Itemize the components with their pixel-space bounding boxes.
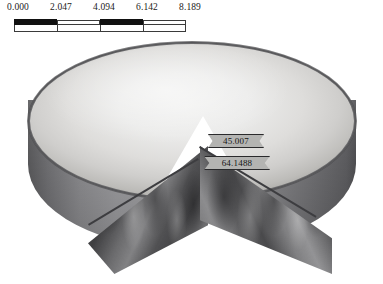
cylinder-model <box>22 42 362 280</box>
scale-bar-segment-3 <box>143 20 186 25</box>
scale-bar: 0.000 2.047 4.094 6.142 8.189 <box>0 0 383 40</box>
scale-bar-tick-3 <box>143 25 144 32</box>
callout-lower[interactable]: 64.1488 <box>204 156 270 170</box>
scale-tick-label-3: 6.142 <box>136 2 158 12</box>
callout-lower-value: 64.1488 <box>222 158 253 168</box>
scale-bar-tick-1 <box>57 25 58 32</box>
callout-upper[interactable]: 45.007 <box>208 134 264 148</box>
scale-bar-graphic <box>14 19 186 33</box>
scale-bar-tick-4 <box>185 25 186 32</box>
scale-bar-segment-2 <box>100 19 143 25</box>
scale-tick-label-0: 0.000 <box>7 2 29 12</box>
scale-bar-segment-1 <box>57 20 100 25</box>
figure-canvas: 0.000 2.047 4.094 6.142 8.189 <box>0 0 383 284</box>
scale-tick-label-1: 2.047 <box>50 2 72 12</box>
scale-bar-labels: 0.000 2.047 4.094 6.142 8.189 <box>0 2 200 16</box>
scale-bar-tick-0 <box>14 25 15 32</box>
scale-bar-tick-2 <box>100 25 101 32</box>
callout-upper-value: 45.007 <box>223 136 249 146</box>
scale-tick-label-2: 4.094 <box>93 2 115 12</box>
scale-bar-segment-0 <box>14 19 57 25</box>
scale-tick-label-4: 8.189 <box>179 2 201 12</box>
